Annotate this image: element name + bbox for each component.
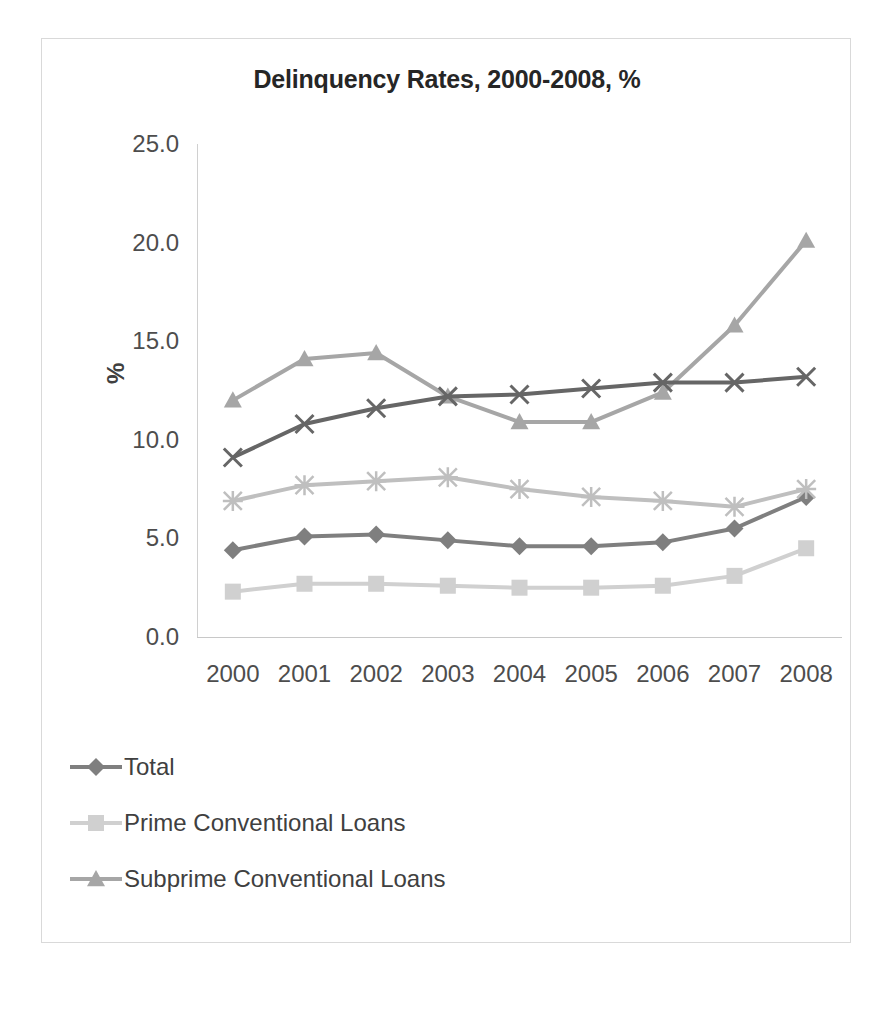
triangle-marker xyxy=(224,391,242,407)
x-axis-tick-label: 2008 xyxy=(761,660,851,688)
square-marker xyxy=(368,576,384,592)
legend-diamond-icon xyxy=(68,753,124,781)
chart-series-svg xyxy=(197,144,842,637)
diamond-marker xyxy=(654,533,672,551)
legend-triangle-icon xyxy=(68,865,124,893)
y-axis-tick-label: 25.0 xyxy=(59,130,179,158)
diamond-marker xyxy=(367,525,385,543)
square-marker xyxy=(440,578,456,594)
asterisk-marker xyxy=(796,479,816,499)
asterisk-marker xyxy=(581,487,601,507)
y-axis-tick-label: 20.0 xyxy=(59,229,179,257)
y-axis-tick-label: 15.0 xyxy=(59,327,179,355)
x-axis-line xyxy=(197,637,842,638)
square-marker xyxy=(512,580,528,596)
square-marker xyxy=(727,568,743,584)
legend-item[interactable]: Subprime Conventional Loans xyxy=(68,851,828,907)
chart-title: Delinquency Rates, 2000-2008, % xyxy=(42,65,852,94)
legend-item-label: Total xyxy=(124,753,175,781)
y-axis-title: % xyxy=(102,363,130,384)
legend-square-icon xyxy=(68,809,124,837)
diamond-marker xyxy=(511,537,529,555)
diamond-marker xyxy=(582,537,600,555)
legend-item[interactable]: Prime Conventional Loans xyxy=(68,795,828,851)
diamond-marker xyxy=(224,541,242,559)
diamond-marker xyxy=(296,527,314,545)
square-marker xyxy=(297,576,313,592)
plot-area: 0.05.010.015.020.025.0 20002001200220032… xyxy=(197,144,842,637)
y-axis-tick-label: 5.0 xyxy=(59,524,179,552)
chart-legend: TotalPrime Conventional LoansSubprime Co… xyxy=(68,739,828,907)
diamond-marker xyxy=(726,520,744,538)
square-marker xyxy=(225,584,241,600)
diamond-marker xyxy=(439,531,457,549)
diamond-marker xyxy=(87,758,105,776)
asterisk-marker xyxy=(653,491,673,511)
chart-card: Delinquency Rates, 2000-2008, % % 0.05.0… xyxy=(41,38,851,943)
y-axis-tick-label: 0.0 xyxy=(59,623,179,651)
asterisk-marker xyxy=(223,491,243,511)
y-axis-tick-label: 10.0 xyxy=(59,426,179,454)
x-marker xyxy=(224,449,242,467)
asterisk-marker xyxy=(366,471,386,491)
legend-item-label: Prime Conventional Loans xyxy=(124,809,406,837)
square-marker xyxy=(655,578,671,594)
asterisk-marker xyxy=(438,467,458,487)
square-marker xyxy=(88,815,104,831)
triangle-marker xyxy=(797,232,815,248)
asterisk-marker xyxy=(510,479,530,499)
square-marker xyxy=(798,540,814,556)
square-marker xyxy=(583,580,599,596)
asterisk-marker xyxy=(295,475,315,495)
asterisk-marker xyxy=(725,497,745,517)
legend-item[interactable]: Total xyxy=(68,739,828,795)
legend-item-label: Subprime Conventional Loans xyxy=(124,865,446,893)
